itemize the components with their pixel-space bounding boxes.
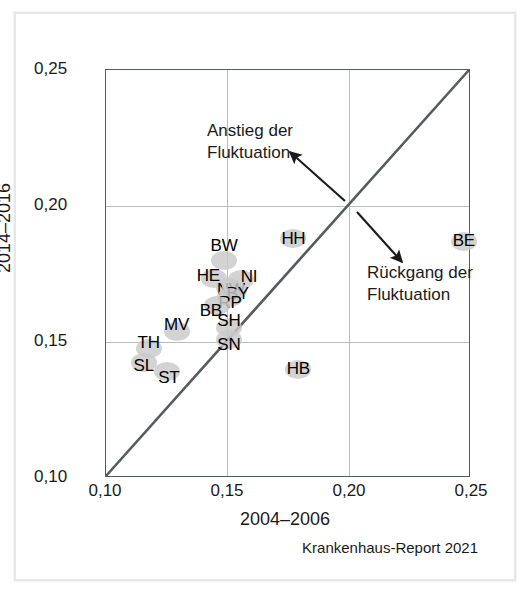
annotation-anstieg-line2: Fluktuation xyxy=(207,142,293,164)
scatter-label-st: ST xyxy=(158,368,179,388)
scatter-label-mv: MV xyxy=(164,315,189,335)
annotation-rueckgang-line2: Fluktuation xyxy=(367,284,473,306)
scatter-label-be: BE xyxy=(453,231,475,251)
y-tick-label-0: 0,10 xyxy=(34,467,67,487)
scatter-label-hb: HB xyxy=(287,359,310,379)
annotation-rueckgang-line1: Rückgang der xyxy=(367,262,473,284)
y-axis-title: 2014–2016 xyxy=(0,183,15,273)
y-tick-label-3: 0,25 xyxy=(34,59,67,79)
annotation-anstieg-line1: Anstieg der xyxy=(207,120,293,142)
y-tick-label-1: 0,15 xyxy=(34,331,67,351)
scatter-label-sh: SH xyxy=(217,311,240,331)
figure-canvas: 0,25 0,20 0,15 0,10 0,10 0,15 0,20 0,25 … xyxy=(0,0,530,593)
scatter-label-hh: HH xyxy=(281,229,305,249)
x-tick-label-2: 0,20 xyxy=(332,481,365,501)
scatter-label-sn: SN xyxy=(217,335,240,355)
x-tick-label-0: 0,10 xyxy=(88,481,121,501)
scatter-label-sl: SL xyxy=(134,356,154,376)
x-tick-label-1: 0,15 xyxy=(210,481,243,501)
x-axis-title: 2004–2006 xyxy=(0,509,530,530)
scatter-label-bw: BW xyxy=(211,236,238,256)
y-tick-label-2: 0,20 xyxy=(34,195,67,215)
scatter-label-th: TH xyxy=(138,333,160,353)
x-tick-label-3: 0,25 xyxy=(454,481,487,501)
source-caption: Krankenhaus-Report 2021 xyxy=(302,539,478,556)
annotation-rueckgang: Rückgang der Fluktuation xyxy=(367,262,473,307)
annotation-anstieg: Anstieg der Fluktuation xyxy=(207,120,293,165)
